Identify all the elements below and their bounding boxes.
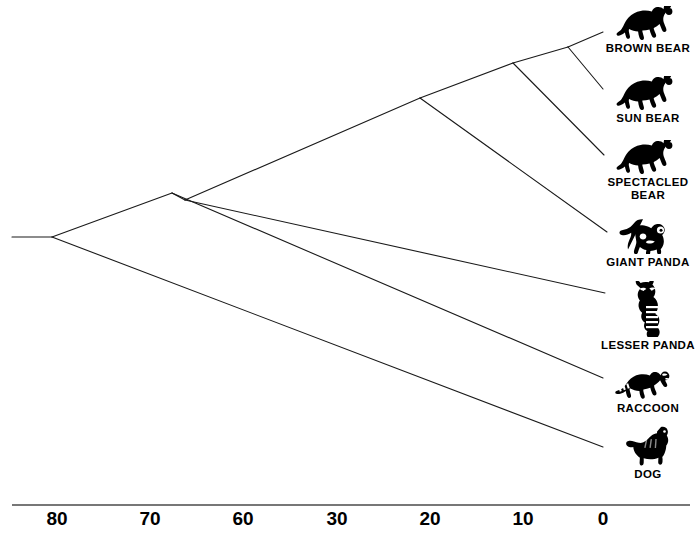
raccoon-icon xyxy=(588,370,700,400)
axis-tick-label-20: 20 xyxy=(419,508,440,530)
taxon-giant-panda[interactable]: GIANT PANDA xyxy=(588,218,700,269)
bear-silhouette-icon xyxy=(588,76,700,110)
dog-icon xyxy=(588,424,700,466)
bear-silhouette-icon xyxy=(588,140,700,174)
branch-upper-to-raccoon xyxy=(172,193,603,378)
phylogenetic-tree-figure: BROWN BEAR SUN BEAR SPECTACLED BEAR xyxy=(0,0,700,552)
taxon-label: GIANT PANDA xyxy=(588,256,700,269)
taxon-dog[interactable]: DOG xyxy=(588,424,700,481)
axis-tick-label-0: 0 xyxy=(598,508,609,530)
axis-tick-label-80: 80 xyxy=(46,508,67,530)
axis-tick-label-70: 70 xyxy=(139,508,160,530)
branch-upper-to-inner xyxy=(172,193,185,200)
taxon-label: BROWN BEAR xyxy=(588,42,700,55)
branch-inner-to-lesser-panda xyxy=(185,200,605,293)
taxon-label: SUN BEAR xyxy=(588,112,700,125)
taxon-brown-bear[interactable]: BROWN BEAR xyxy=(588,6,700,55)
taxon-label: SPECTACLED BEAR xyxy=(588,176,700,202)
taxon-label: LESSER PANDA xyxy=(588,339,700,352)
taxon-label: RACCOON xyxy=(588,402,700,415)
branch-ursidpanda-to-giant-panda xyxy=(420,98,607,232)
axis-tick-label-60: 60 xyxy=(232,508,253,530)
giant-panda-icon xyxy=(588,218,700,254)
branch-bears-to-brownsun xyxy=(513,47,568,63)
taxon-sun-bear[interactable]: SUN BEAR xyxy=(588,76,700,125)
branch-ursidpanda-to-bears xyxy=(420,63,513,98)
lesser-panda-icon xyxy=(588,281,700,337)
taxon-spectacled-bear[interactable]: SPECTACLED BEAR xyxy=(588,140,700,202)
axis-tick-label-10: 10 xyxy=(512,508,533,530)
branch-inner-to-ursid-panda xyxy=(185,98,420,200)
taxon-lesser-panda[interactable]: LESSER PANDA xyxy=(588,281,700,352)
axis-tick-label-30: 30 xyxy=(326,508,347,530)
bear-silhouette-icon xyxy=(588,6,700,40)
taxon-raccoon[interactable]: RACCOON xyxy=(588,370,700,415)
branch-root-to-upper xyxy=(52,193,172,237)
taxon-label: DOG xyxy=(588,468,700,481)
